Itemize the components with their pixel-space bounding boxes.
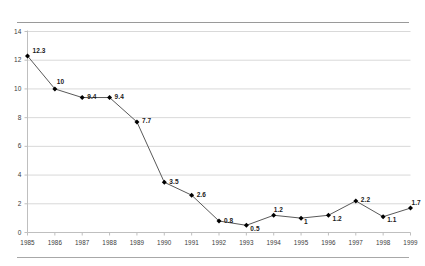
x-tick-label: 1993 xyxy=(231,239,261,247)
y-tick-label: 6 xyxy=(2,142,22,150)
x-tick-label: 1996 xyxy=(313,239,343,247)
axis-tick-group xyxy=(25,32,411,236)
x-tick-label: 1985 xyxy=(13,239,43,247)
data-point-label: 12.3 xyxy=(33,47,46,55)
y-tick-label: 8 xyxy=(2,114,22,122)
x-tick-label: 1999 xyxy=(396,239,425,247)
data-point-marker xyxy=(381,214,386,219)
x-tick-label: 1995 xyxy=(286,239,316,247)
x-tick-label: 1988 xyxy=(95,239,125,247)
x-tick-label: 1994 xyxy=(259,239,289,247)
x-tick-label: 1997 xyxy=(341,239,371,247)
y-tick-label: 4 xyxy=(2,171,22,179)
data-point-marker xyxy=(353,198,358,203)
y-tick-label: 12 xyxy=(2,56,22,64)
x-tick-label: 1986 xyxy=(40,239,70,247)
chart-plot-svg xyxy=(0,26,420,252)
horizontal-rule-bottom xyxy=(17,257,409,258)
data-point-marker xyxy=(326,213,331,218)
x-tick-label: 1989 xyxy=(122,239,152,247)
horizontal-rule-top xyxy=(17,22,409,23)
y-tick-label: 10 xyxy=(2,85,22,93)
data-point-label: 0.5 xyxy=(250,225,259,233)
data-point-label: 0.8 xyxy=(224,217,233,225)
data-point-label: 7.7 xyxy=(142,117,151,125)
y-tick-label: 2 xyxy=(2,200,22,208)
data-point-label: 1.7 xyxy=(412,199,421,207)
x-tick-label: 1998 xyxy=(368,239,398,247)
x-tick-label: 1987 xyxy=(67,239,97,247)
data-point-label: 2.2 xyxy=(361,196,370,204)
data-point-marker xyxy=(162,180,167,185)
data-point-label: 10 xyxy=(57,78,64,86)
data-point-label: 1.2 xyxy=(274,206,283,214)
x-tick-label: 1990 xyxy=(149,239,179,247)
data-point-label: 3.5 xyxy=(169,178,178,186)
data-point-label: 9.4 xyxy=(115,93,124,101)
data-point-label: 9.4 xyxy=(87,93,96,101)
x-tick-label: 1992 xyxy=(204,239,234,247)
data-point-label: 1.1 xyxy=(387,216,396,224)
data-point-label: 1 xyxy=(304,218,308,226)
line-chart-figure: 02468101214 1985198619871988198919901991… xyxy=(0,26,420,252)
data-point-label: 2.6 xyxy=(197,191,206,199)
data-point-marker xyxy=(244,223,249,228)
x-tick-label: 1991 xyxy=(177,239,207,247)
y-tick-label: 0 xyxy=(2,229,22,237)
data-point-marker xyxy=(299,216,304,221)
gridline-group xyxy=(28,32,411,204)
y-tick-label: 14 xyxy=(2,28,22,36)
data-point-label: 1.2 xyxy=(332,215,341,223)
series-marker-group xyxy=(25,53,413,227)
data-point-marker xyxy=(80,95,85,100)
series-line-path xyxy=(28,56,411,225)
